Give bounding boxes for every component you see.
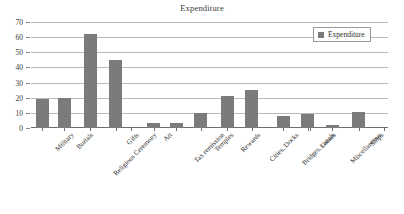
y-axis-tick-label: 30 [0, 78, 23, 87]
bar [352, 112, 365, 128]
bar [36, 99, 49, 128]
y-axis-tick-mark [26, 98, 30, 99]
x-axis-labels: MilitaryBurialsReligious CeremonyGiftsAr… [0, 131, 404, 214]
bar [84, 34, 97, 128]
bar [58, 98, 71, 128]
x-axis-tick-label: Burials [75, 131, 95, 151]
y-axis-tick-mark [26, 83, 30, 84]
bar-chart: Expenditure 010203040506070 MilitaryBuri… [0, 0, 404, 214]
bar [194, 113, 207, 128]
legend: Expenditure [313, 27, 371, 42]
legend-square-marker-icon [318, 32, 324, 38]
y-axis-tick-mark [26, 37, 30, 38]
x-axis-tick-label: Rewards [240, 131, 263, 154]
y-axis-tick-mark [26, 52, 30, 53]
y-axis-tick-mark [26, 67, 30, 68]
y-axis-tick-label: 10 [0, 108, 23, 117]
bar [221, 96, 234, 128]
bar [109, 60, 122, 128]
y-axis-tick-label: 20 [0, 93, 23, 102]
y-axis-tick-mark [26, 22, 30, 23]
y-axis-tick-label: 40 [0, 63, 23, 72]
x-axis-tick-label: Art [161, 131, 173, 143]
x-axis-tick-label: Military [54, 131, 76, 153]
legend-label: Expenditure [328, 30, 365, 39]
chart-title: Expenditure [0, 3, 404, 13]
y-axis-tick-label: 60 [0, 33, 23, 42]
bar [301, 114, 314, 128]
y-axis-tick-label: 70 [0, 18, 23, 27]
x-axis-tick-label: Ships [369, 131, 386, 148]
bar [277, 116, 290, 128]
y-axis-tick-label: 50 [0, 48, 23, 57]
y-axis-tick-mark [26, 128, 30, 129]
bar [245, 90, 258, 128]
x-axis-tick-label: Losses [318, 131, 337, 150]
x-axis-tick-label: Cities, Docks [268, 131, 300, 163]
y-axis-tick-mark [26, 113, 30, 114]
